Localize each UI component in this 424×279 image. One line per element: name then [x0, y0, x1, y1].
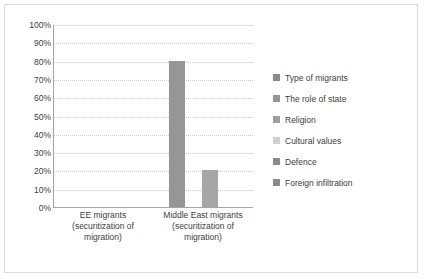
- x-tick-line: Middle East migrants: [153, 210, 253, 221]
- legend-swatch-icon: [273, 137, 280, 144]
- legend-item-the-role-of-state: The role of state: [273, 88, 413, 109]
- legend-swatch-icon: [273, 74, 280, 81]
- y-tick-label: 80%: [7, 57, 51, 66]
- y-tick-label: 10%: [7, 185, 51, 194]
- legend: Type of migrants The role of state Relig…: [273, 67, 413, 193]
- legend-item-type-of-migrants: Type of migrants: [273, 67, 413, 88]
- legend-swatch-icon: [273, 95, 280, 102]
- y-tick-label: 30%: [7, 149, 51, 158]
- legend-swatch-icon: [273, 116, 280, 123]
- legend-item-cultural-values: Cultural values: [273, 130, 413, 151]
- gridline: [54, 153, 253, 154]
- gridline: [54, 190, 253, 191]
- gridline: [54, 80, 253, 81]
- y-tick-label: 70%: [7, 75, 51, 84]
- y-tick-label: 20%: [7, 167, 51, 176]
- legend-swatch-icon: [273, 158, 280, 165]
- legend-item-defence: Defence: [273, 151, 413, 172]
- legend-label: Cultural values: [285, 136, 341, 146]
- plot-area: [53, 25, 253, 208]
- y-tick-label: 90%: [7, 39, 51, 48]
- y-tick-label: 100%: [7, 21, 51, 30]
- x-tick-line: migration): [153, 232, 253, 243]
- gridline: [54, 117, 253, 118]
- gridline: [54, 43, 253, 44]
- x-axis: EE migrants (securitization of migration…: [53, 210, 253, 266]
- legend-swatch-icon: [273, 179, 280, 186]
- legend-label: Type of migrants: [285, 73, 348, 83]
- chart-container: 100% 90% 80% 70% 60% 50% 40% 30% 20% 10%…: [4, 4, 418, 273]
- gridline: [54, 98, 253, 99]
- legend-label: Religion: [285, 115, 316, 125]
- gridline: [54, 171, 253, 172]
- x-tick-line: (securitization of: [53, 221, 153, 232]
- x-tick-label-middle-east-migrants: Middle East migrants (securitization of …: [153, 210, 253, 243]
- gridline: [54, 62, 253, 63]
- y-tick-label: 50%: [7, 112, 51, 121]
- bar-foreign-infiltration: [202, 170, 218, 207]
- y-axis: 100% 90% 80% 70% 60% 50% 40% 30% 20% 10%…: [5, 25, 51, 208]
- x-tick-line: (securitization of: [153, 221, 253, 232]
- gridline: [54, 135, 253, 136]
- legend-label: Defence: [285, 157, 317, 167]
- legend-item-foreign-infiltration: Foreign infiltration: [273, 172, 413, 193]
- legend-item-religion: Religion: [273, 109, 413, 130]
- y-tick-label: 60%: [7, 94, 51, 103]
- x-tick-line: migration): [53, 232, 153, 243]
- x-tick-line: EE migrants: [53, 210, 153, 221]
- legend-label: The role of state: [285, 94, 346, 104]
- y-tick-label: 40%: [7, 130, 51, 139]
- y-tick-label: 0%: [7, 204, 51, 213]
- bar-religion: [169, 61, 185, 207]
- x-tick-label-ee-migrants: EE migrants (securitization of migration…: [53, 210, 153, 243]
- gridline: [54, 25, 253, 26]
- legend-label: Foreign infiltration: [285, 178, 353, 188]
